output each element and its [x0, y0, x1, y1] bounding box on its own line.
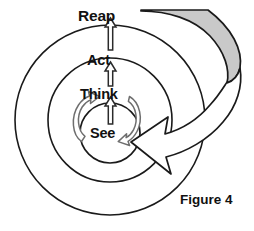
figure-caption: Figure 4: [180, 192, 233, 207]
label-see: See: [90, 126, 115, 141]
label-reap: Reap: [78, 8, 115, 24]
label-act: Act: [87, 53, 110, 68]
big-sweeping-arrow: [131, 10, 241, 174]
label-think: Think: [80, 87, 118, 102]
figure-4-diagram: Reap Act Think See Figure 4: [0, 0, 254, 231]
